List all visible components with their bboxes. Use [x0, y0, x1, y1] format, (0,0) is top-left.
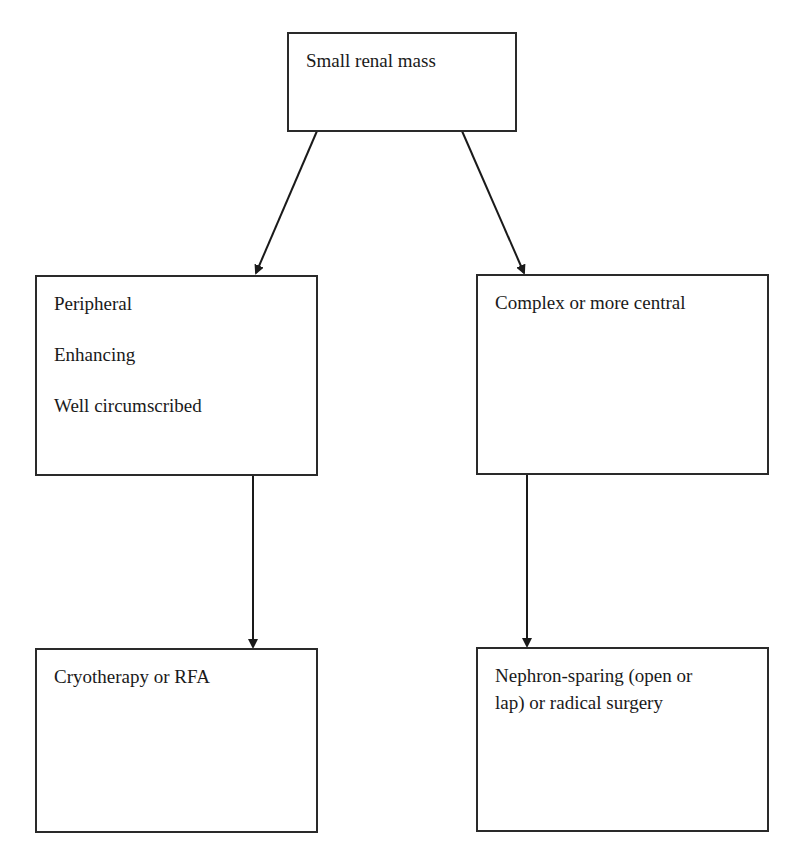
node-label: Peripheral	[54, 291, 300, 318]
node-label: lap) or radical surgery	[495, 690, 751, 717]
flowchart-canvas: Small renal mass Peripheral Enhancing We…	[0, 0, 796, 853]
arrow-root-to-left	[256, 131, 317, 273]
node-surgery: Nephron-sparing (open or lap) or radical…	[476, 647, 769, 832]
node-peripheral-criteria: Peripheral Enhancing Well circumscribed	[35, 275, 318, 476]
node-label: Well circumscribed	[54, 393, 300, 420]
node-label: Small renal mass	[306, 48, 499, 75]
node-label: Cryotherapy or RFA	[54, 664, 300, 691]
node-cryotherapy-rfa: Cryotherapy or RFA	[35, 648, 318, 833]
node-label: Nephron-sparing (open or	[495, 663, 751, 690]
node-label: Enhancing	[54, 342, 300, 369]
node-complex-central: Complex or more central	[476, 274, 769, 475]
node-label: Complex or more central	[495, 290, 751, 317]
arrow-root-to-right	[462, 131, 524, 273]
node-small-renal-mass: Small renal mass	[287, 32, 517, 132]
